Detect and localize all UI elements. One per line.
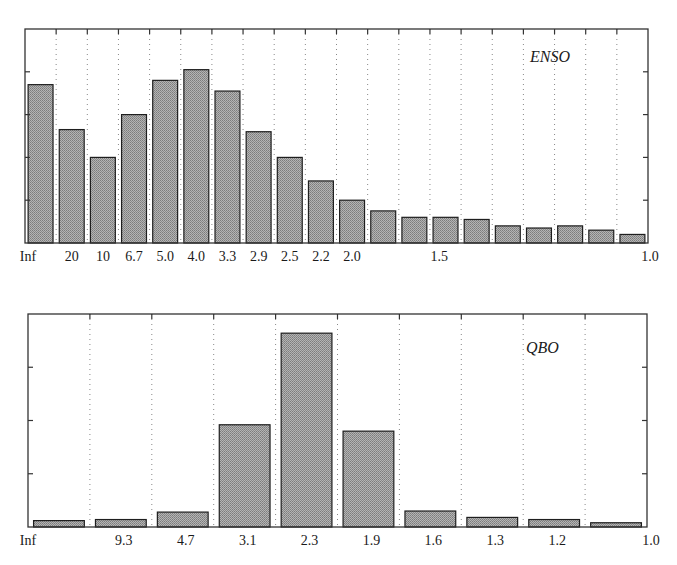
bar-1.2 [529, 520, 580, 527]
x-tick-label: 2.5 [281, 249, 299, 264]
bar-20 [59, 130, 84, 243]
bar-2.2 [308, 181, 333, 243]
bar-2.0 [340, 200, 365, 243]
x-tick-label: 2.0 [343, 249, 361, 264]
x-tick-label: 20 [65, 249, 79, 264]
bar-idx18 [589, 230, 614, 243]
x-tick-label: 10 [96, 249, 110, 264]
x-tick-label: 9.3 [115, 533, 133, 548]
bar-1.6 [405, 511, 456, 527]
enso-panel: Inf20106.75.04.03.32.92.52.22.01.51.0ENS… [0, 0, 677, 285]
x-tick-label: 1.3 [487, 533, 505, 548]
bar-2.9 [246, 132, 271, 243]
bar-idx14 [464, 219, 489, 243]
bar-1.3 [467, 517, 518, 527]
x-tick-label: 6.7 [125, 249, 143, 264]
bar-idx17 [558, 226, 583, 243]
qbo-panel: Inf9.34.73.12.31.91.61.31.21.0QBO [0, 285, 677, 565]
bar-Inf [34, 521, 85, 527]
enso-chart: Inf20106.75.04.03.32.92.52.22.01.51.0ENS… [0, 0, 677, 285]
x-tick-label: 1.9 [363, 533, 381, 548]
bar-3.3 [215, 91, 240, 243]
x-tick-label: 2.9 [250, 249, 268, 264]
x-tick-label: 3.1 [239, 533, 257, 548]
bar-Inf [28, 85, 53, 243]
bar-1.0 [620, 234, 645, 243]
x-tick-label: Inf [20, 249, 37, 264]
bar-1.9 [343, 431, 394, 527]
bar-6.7 [122, 115, 147, 243]
x-tick-label: 2.2 [312, 249, 330, 264]
bar-1.5 [433, 217, 458, 243]
bar-5.0 [153, 80, 178, 243]
bar-idx11 [371, 211, 396, 243]
x-tick-label: 1.2 [548, 533, 566, 548]
chart-title: QBO [526, 339, 559, 356]
qbo-chart: Inf9.34.73.12.31.91.61.31.21.0QBO [0, 285, 677, 565]
x-tick-label: 1.5 [431, 249, 449, 264]
bar-4.0 [184, 70, 209, 243]
bar-10 [90, 157, 115, 243]
bar-idx16 [527, 228, 552, 243]
x-tick-label: 1.0 [641, 249, 659, 264]
bar-2.5 [277, 157, 302, 243]
x-tick-label: 1.6 [425, 533, 443, 548]
bar-9.3 [95, 520, 146, 527]
bar-3.1 [219, 425, 270, 527]
x-tick-label: 4.0 [188, 249, 206, 264]
bar-4.7 [157, 512, 208, 527]
x-tick-label: 5.0 [156, 249, 174, 264]
chart-title: ENSO [529, 48, 570, 65]
x-tick-label: 1.0 [642, 533, 660, 548]
bar-2.3 [281, 333, 332, 527]
bar-idx15 [495, 226, 520, 243]
bar-idx12 [402, 217, 427, 243]
x-tick-label: 4.7 [177, 533, 195, 548]
x-tick-label: 2.3 [301, 533, 319, 548]
x-tick-label: 3.3 [219, 249, 237, 264]
x-tick-label: Inf [20, 533, 37, 548]
